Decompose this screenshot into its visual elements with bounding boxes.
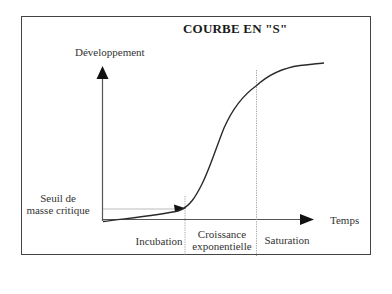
threshold-label-line2: masse critique — [25, 204, 91, 216]
x-axis-label: Temps — [330, 214, 359, 226]
diagram-title: COURBE EN "S" — [183, 21, 287, 37]
s-curve — [103, 63, 324, 222]
phase-label-saturation: Saturation — [262, 234, 312, 246]
y-axis — [97, 66, 109, 221]
phase-label-incubation: Incubation — [134, 235, 184, 247]
x-axis-arrow-icon — [300, 214, 314, 225]
threshold-label: Seuil de masse critique — [25, 192, 91, 216]
y-axis-arrow-icon — [97, 66, 109, 79]
phase-label-croissance: Croissance exponentielle — [190, 228, 254, 252]
y-axis-label: Développement — [75, 46, 145, 58]
threshold-line — [103, 205, 186, 213]
x-axis — [103, 214, 315, 225]
threshold-label-line1: Seuil de — [25, 192, 91, 204]
